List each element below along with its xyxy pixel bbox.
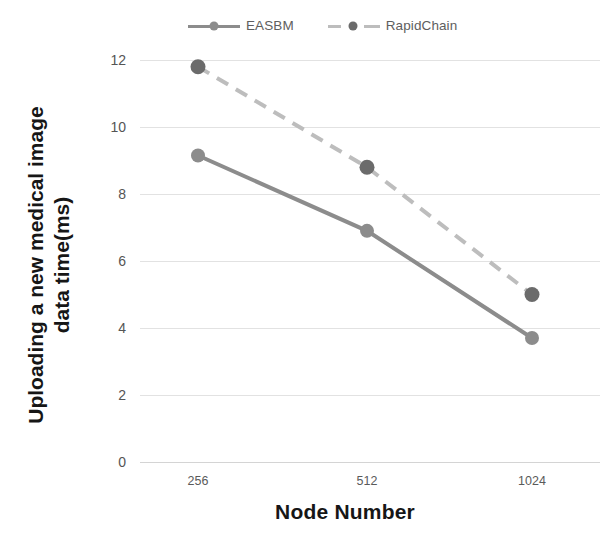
- series-line-rapidchain: [198, 67, 532, 295]
- data-point: [191, 59, 206, 74]
- y-tick-0: 0: [100, 454, 126, 470]
- x-axis-title: Node Number: [201, 500, 415, 523]
- legend-line-marker-icon: [188, 20, 240, 32]
- y-axis-tick-labels: 12 10 8 6 4 2 0: [100, 60, 126, 462]
- data-point: [191, 148, 205, 162]
- y-tick-2: 2: [100, 387, 126, 403]
- chart-legend: EASBM RapidChain: [188, 18, 457, 33]
- data-point: [360, 224, 374, 238]
- y-tick-6: 6: [100, 253, 126, 269]
- y-axis-title-line2: data time(ms): [50, 197, 73, 334]
- chart-container: EASBM RapidChain 12 10 8 6 4 2 0: [0, 0, 616, 543]
- series-markers-easbm: [191, 148, 539, 345]
- x-axis-title-wrapper: Node Number: [0, 500, 616, 524]
- y-tick-4: 4: [100, 320, 126, 336]
- y-tick-10: 10: [100, 119, 126, 135]
- legend-item-easbm[interactable]: EASBM: [188, 18, 294, 33]
- y-axis-title: Uploading a new medical image data time(…: [14, 60, 84, 470]
- x-tick-1024: 1024: [518, 474, 546, 488]
- y-tick-12: 12: [100, 52, 126, 68]
- y-axis-title-line1: Uploading a new medical image: [24, 106, 47, 423]
- legend-dashed-line-marker-icon: [328, 20, 380, 32]
- legend-label-rapidchain: RapidChain: [386, 18, 458, 33]
- series-line-easbm: [198, 155, 532, 338]
- gridline-0-baseline: [140, 462, 600, 463]
- data-point: [525, 331, 539, 345]
- data-point: [525, 287, 540, 302]
- legend-item-rapidchain[interactable]: RapidChain: [328, 18, 458, 33]
- plot-area: [140, 60, 600, 462]
- x-tick-512: 512: [357, 474, 378, 488]
- y-tick-8: 8: [100, 186, 126, 202]
- legend-label-easbm: EASBM: [246, 18, 294, 33]
- series-layer: [140, 60, 600, 462]
- x-tick-256: 256: [188, 474, 209, 488]
- data-point: [360, 160, 375, 175]
